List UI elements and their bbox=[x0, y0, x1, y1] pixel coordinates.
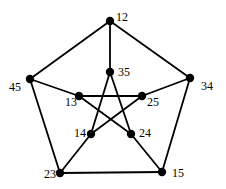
edge-14-25 bbox=[91, 96, 142, 134]
node-14 bbox=[87, 130, 95, 138]
node-23 bbox=[56, 169, 64, 177]
edge-34-25 bbox=[142, 78, 190, 96]
node-label-34: 34 bbox=[201, 79, 213, 93]
node-34 bbox=[186, 74, 194, 82]
node-label-15: 15 bbox=[172, 166, 184, 180]
graph-edges bbox=[30, 21, 190, 173]
node-15 bbox=[158, 168, 166, 176]
node-45 bbox=[26, 75, 34, 83]
edge-45-12 bbox=[30, 21, 110, 79]
edge-45-13 bbox=[30, 79, 79, 96]
node-label-25: 25 bbox=[147, 95, 159, 109]
node-label-23: 23 bbox=[44, 167, 56, 181]
node-label-14: 14 bbox=[74, 126, 86, 140]
node-35 bbox=[106, 68, 114, 76]
edge-34-15 bbox=[162, 78, 190, 172]
edge-15-23 bbox=[60, 172, 162, 173]
node-25 bbox=[138, 92, 146, 100]
edge-35-14 bbox=[91, 72, 110, 134]
node-24 bbox=[127, 130, 135, 138]
node-label-45: 45 bbox=[9, 80, 21, 94]
edge-13-24 bbox=[79, 96, 131, 134]
node-label-13: 13 bbox=[65, 95, 77, 109]
node-label-12: 12 bbox=[116, 10, 128, 24]
edge-35-24 bbox=[110, 72, 131, 134]
node-12 bbox=[106, 17, 114, 25]
node-label-24: 24 bbox=[139, 126, 151, 140]
node-label-35: 35 bbox=[118, 65, 130, 79]
petersen-graph-diagram: 12341523453525241413 bbox=[0, 0, 226, 189]
edge-23-45 bbox=[30, 79, 60, 173]
